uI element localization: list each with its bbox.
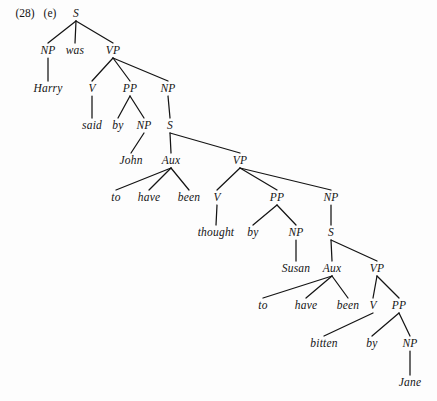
tree-edge — [377, 276, 399, 298]
tree-node-s3: S — [328, 227, 334, 239]
tree-node-by2: by — [247, 227, 258, 239]
tree-node-np5: NP — [288, 227, 303, 239]
tree-node-been2: been — [337, 300, 360, 312]
tree-edge — [240, 168, 277, 190]
tree-edge — [217, 168, 240, 190]
tree-edge — [306, 276, 332, 298]
tree-node-np2: NP — [160, 83, 175, 95]
tree-node-s1: S — [73, 8, 79, 20]
tree-edge — [331, 240, 332, 261]
tree-edge — [168, 96, 170, 118]
tree-node-pp3: PP — [392, 300, 406, 312]
tree-node-vp3: VP — [370, 263, 384, 275]
example-sublabel: (e) — [44, 8, 57, 20]
tree-edge — [277, 205, 296, 225]
tree-node-bitten: bitten — [310, 338, 337, 350]
diagram-page: (28) (e) SNPwasVPHarryVPPNPsaidbyNPSJohn… — [0, 0, 437, 401]
tree-edge — [118, 96, 130, 118]
tree-node-thought: thought — [198, 227, 235, 239]
tree-node-by1: by — [112, 120, 123, 132]
tree-edge — [170, 133, 240, 153]
tree-node-pp1: PP — [123, 83, 137, 95]
tree-node-s2: S — [167, 120, 173, 132]
tree-node-have2: have — [295, 300, 318, 312]
tree-edge — [48, 21, 76, 43]
tree-edge — [263, 276, 332, 298]
tree-edge — [332, 276, 348, 298]
tree-edge — [76, 21, 113, 43]
tree-edge — [92, 58, 113, 81]
tree-node-v2: V — [213, 192, 220, 204]
tree-edge — [116, 168, 171, 190]
tree-node-harry: Harry — [33, 83, 62, 95]
tree-edge — [240, 168, 331, 190]
tree-node-have1: have — [138, 192, 161, 204]
tree-node-to1: to — [111, 192, 120, 204]
tree-edge — [372, 313, 399, 336]
tree-node-been1: been — [178, 192, 201, 204]
tree-node-jane: Jane — [399, 377, 422, 389]
tree-node-vp2: VP — [233, 155, 247, 167]
tree-node-np6: NP — [402, 338, 417, 350]
tree-node-aux1: Aux — [162, 155, 180, 167]
tree-node-np1: NP — [40, 45, 55, 57]
tree-node-by3: by — [366, 338, 377, 350]
tree-edge — [75, 21, 76, 43]
tree-edge — [216, 205, 217, 225]
tree-edge — [171, 168, 189, 190]
example-number: (28) — [15, 8, 34, 20]
tree-node-v3: V — [369, 300, 376, 312]
tree-edge — [373, 276, 377, 298]
tree-node-pp2: PP — [270, 192, 284, 204]
tree-node-was: was — [66, 45, 85, 57]
tree-node-np3: NP — [136, 120, 151, 132]
tree-node-vp1: VP — [106, 45, 120, 57]
tree-edge — [399, 313, 410, 336]
tree-edge — [130, 96, 144, 118]
tree-node-aux2: Aux — [323, 263, 341, 275]
tree-edge — [170, 133, 171, 153]
tree-node-said: said — [82, 120, 102, 132]
tree-edge — [149, 168, 171, 190]
tree-edge — [324, 313, 373, 336]
tree-edge — [331, 240, 377, 261]
tree-node-to2: to — [258, 300, 267, 312]
tree-node-np4: NP — [323, 192, 338, 204]
tree-node-john: John — [119, 155, 142, 167]
tree-node-v1: V — [88, 83, 95, 95]
tree-node-susan: Susan — [282, 263, 310, 275]
tree-edge — [253, 205, 277, 225]
tree-edge — [131, 133, 144, 153]
